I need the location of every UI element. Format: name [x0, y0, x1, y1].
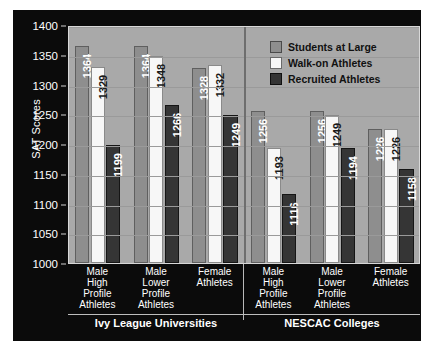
y-axis-tick: 1300: [32, 80, 58, 92]
bar: 1158: [399, 169, 413, 263]
bar: 1266: [165, 105, 179, 263]
chart-screenshot: SAT Scores 14001350130012501200115011001…: [0, 0, 436, 362]
x-axis-category-line: High: [68, 277, 127, 288]
legend-swatch: [270, 57, 282, 69]
bar-value-label: 1256: [258, 118, 269, 142]
x-axis-category-line: Profile: [244, 288, 303, 299]
x-axis-category: MaleHighProfileAthletes: [244, 266, 303, 310]
x-axis-category-line: High: [244, 277, 303, 288]
x-axis-category-line: Athletes: [185, 277, 244, 288]
y-axis-tick: 1250: [32, 109, 58, 121]
x-axis-category-line: Profile: [68, 288, 127, 299]
y-axis-tick-mark: [61, 234, 66, 235]
legend-swatch: [270, 73, 282, 85]
y-axis-tick-mark: [61, 85, 66, 86]
legend-item: Recruited Athletes: [270, 72, 380, 85]
bar-value-label: 1249: [231, 123, 242, 147]
panel-group-titles: Ivy League UniversitiesNESCAC Colleges: [68, 317, 420, 333]
y-axis-tick: 1050: [32, 228, 58, 240]
group-title: Ivy League Universities: [68, 317, 244, 329]
bar-value-label: 1332: [215, 73, 226, 97]
x-axis-category: FemaleAthletes: [361, 266, 420, 288]
bar: 1249: [325, 115, 339, 263]
y-axis-tick: 1350: [32, 50, 58, 62]
bar-value-label: 1249: [332, 123, 343, 147]
x-axis-category-line: Male: [244, 266, 303, 277]
x-axis-category-line: Athletes: [303, 299, 362, 310]
bar: 1256: [310, 111, 324, 263]
x-axis-category-line: Female: [185, 266, 244, 277]
y-axis-tick-mark: [61, 204, 66, 205]
y-axis-tick-mark: [61, 174, 66, 175]
legend-label: Students at Large: [288, 41, 377, 53]
y-axis-tick-mark: [61, 26, 66, 27]
bar-value-label: 1226: [391, 136, 402, 160]
x-axis-category: MaleHighProfileAthletes: [68, 266, 127, 310]
x-axis-category: MaleLowerProfileAthletes: [127, 266, 186, 310]
bar: 1364: [134, 46, 148, 263]
bar-value-label: 1199: [113, 153, 124, 177]
bar: 1226: [368, 129, 382, 263]
x-axis-category: MaleLowerProfileAthletes: [303, 266, 362, 310]
y-axis-tick-mark: [61, 145, 66, 146]
bar: 1329: [91, 67, 105, 263]
bar: 1249: [223, 115, 237, 263]
x-axis-category-line: Female: [361, 266, 420, 277]
y-axis-tick: 1400: [32, 20, 58, 32]
group-title: NESCAC Colleges: [244, 317, 420, 329]
x-axis-category-line: Lower: [303, 277, 362, 288]
x-axis-category-labels: MaleHighProfileAthletesMaleLowerProfileA…: [68, 266, 420, 318]
x-axis-category-line: Athletes: [127, 299, 186, 310]
y-axis-tick-labels: 140013501300125012001150110010501000: [13, 10, 68, 341]
panel-divider: [244, 27, 246, 263]
bar: 1256: [251, 111, 265, 263]
x-axis-category-line: Male: [68, 266, 127, 277]
bar: 1332: [208, 65, 222, 263]
x-axis-category-line: Lower: [127, 277, 186, 288]
bar-value-label: 1348: [156, 64, 167, 88]
x-axis-category-line: Profile: [127, 288, 186, 299]
x-axis-category-line: Athletes: [68, 299, 127, 310]
y-axis-tick: 1100: [33, 199, 58, 211]
x-axis-category-line: Athletes: [361, 277, 420, 288]
x-axis-category-line: Male: [303, 266, 362, 277]
y-axis-tick: 1200: [32, 139, 58, 151]
y-axis-tick-mark: [61, 115, 66, 116]
bar: 1364: [75, 46, 89, 263]
y-axis-tick-mark: [61, 264, 66, 265]
legend-item: Students at Large: [270, 40, 380, 53]
x-axis-category-line: Athletes: [244, 299, 303, 310]
legend-item: Walk-on Athletes: [270, 56, 380, 69]
y-axis-tick: 1000: [32, 258, 58, 270]
y-axis-tick: 1150: [33, 169, 58, 181]
legend-label: Recruited Athletes: [288, 73, 380, 85]
bar: 1199: [106, 145, 120, 263]
bar: 1328: [192, 68, 206, 263]
legend-label: Walk-on Athletes: [288, 57, 372, 69]
x-axis-category: FemaleAthletes: [185, 266, 244, 288]
y-axis-tick-mark: [61, 55, 66, 56]
bar: 1226: [384, 129, 398, 263]
bar: 1116: [282, 194, 296, 263]
bar-value-label: 1158: [407, 177, 418, 201]
legend: Students at LargeWalk-on AthletesRecruit…: [270, 40, 380, 85]
x-axis-category-line: Profile: [303, 288, 362, 299]
x-axis-category-line: Male: [127, 266, 186, 277]
legend-swatch: [270, 41, 282, 53]
group-title-rule: [68, 314, 420, 315]
